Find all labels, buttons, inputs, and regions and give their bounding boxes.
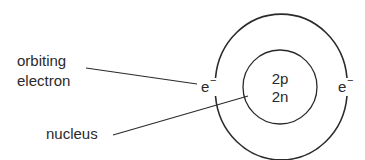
electron-left: e −	[201, 74, 216, 95]
nucleus-circle	[243, 50, 317, 124]
electron-orbit	[216, 14, 348, 78]
label-electron: electron	[17, 72, 70, 89]
neutrons-count: 2n	[272, 88, 289, 105]
protons-count: 2p	[272, 70, 289, 87]
electron-orbit-lower	[216, 96, 348, 160]
label-orbiting: orbiting	[17, 52, 66, 69]
atom-diagram: 2p 2n e − e − orbiting electron nucleus	[0, 0, 365, 160]
electron-symbol: e	[201, 78, 209, 95]
label-nucleus: nucleus	[46, 125, 98, 142]
leader-line-electron	[86, 68, 197, 84]
electron-charge: −	[347, 74, 353, 86]
electron-charge: −	[210, 74, 216, 86]
electron-right: e −	[338, 74, 353, 95]
leader-line-nucleus	[113, 96, 248, 135]
electron-symbol: e	[338, 78, 346, 95]
